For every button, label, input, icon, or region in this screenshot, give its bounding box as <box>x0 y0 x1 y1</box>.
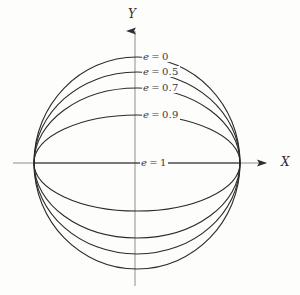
annotation-value-e-0-5: 0.5 <box>162 66 179 77</box>
y-axis-label: Y <box>128 8 136 20</box>
curve-annotation-e-0-9: e=0.9 <box>142 110 180 120</box>
annotation-equals-e-1: = <box>147 157 160 168</box>
annotation-equals-e-0-5: = <box>149 66 162 77</box>
plot-canvas <box>0 0 300 295</box>
x-axis-label: X <box>281 156 290 168</box>
curve-annotation-e-1: e=1 <box>140 158 168 168</box>
curve-annotation-e-0-7: e=0.7 <box>142 83 180 93</box>
annotation-equals-e-0-7: = <box>149 82 162 93</box>
annotation-value-e-0-9: 0.9 <box>162 109 179 120</box>
eccentricity-figure: e=0 e=0.5 e=0.7 e=0.9 e=1 Y X <box>0 0 300 295</box>
annotation-value-e-0: 0 <box>162 51 169 62</box>
annotation-value-e-1: 1 <box>160 157 167 168</box>
annotation-equals-e-0: = <box>149 51 162 62</box>
curve-annotation-e-0-5: e=0.5 <box>142 67 180 77</box>
annotation-value-e-0-7: 0.7 <box>162 82 179 93</box>
annotation-equals-e-0-9: = <box>149 109 162 120</box>
curve-annotation-e-0: e=0 <box>142 52 170 62</box>
